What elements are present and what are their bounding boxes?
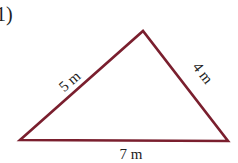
side-label-base: 7 m [120,146,143,162]
side-label-right: 4 m [190,59,217,87]
side-label-left: 5 m [56,67,84,94]
triangle-diagram: 5 m 4 m 7 m [0,0,238,163]
triangle-shape [20,31,228,141]
